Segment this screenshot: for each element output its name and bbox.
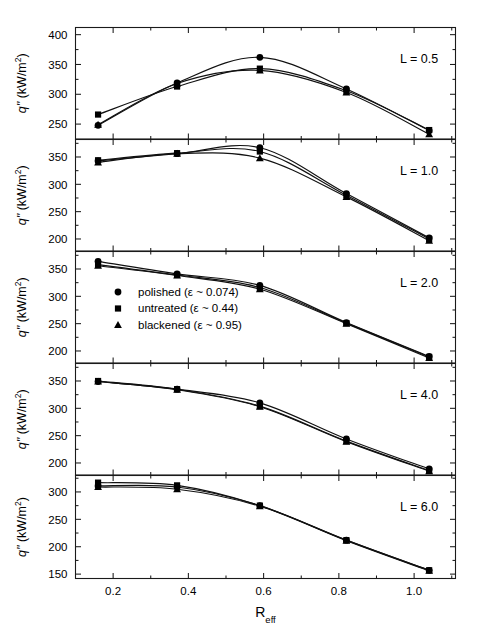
x-tick-label: 1.0 <box>406 585 422 597</box>
panel-L-1.0: 200250300350L = 1.0q" (kW/m2) <box>13 140 456 252</box>
series-curve <box>98 149 429 239</box>
panel-frame <box>76 140 456 252</box>
legend-label: blackened (ε ~ 0.95) <box>138 319 242 331</box>
y-tick-label: 200 <box>48 345 67 357</box>
series-curve <box>98 70 429 134</box>
series-curve <box>98 487 429 571</box>
multi-panel-chart: 250300350400L = 0.5q" (kW/m2)20025030035… <box>0 0 479 632</box>
y-tick-label: 350 <box>48 59 67 71</box>
y-tick-label: 150 <box>48 568 67 580</box>
panel-label: L = 1.0 <box>400 164 438 178</box>
panel-L-6.0: 150200250300L = 6.0q" (kW/m2) <box>13 476 456 581</box>
series-curve <box>98 483 429 571</box>
series-curve <box>98 69 429 130</box>
y-axis-title: q" (kW/m2) <box>13 165 29 225</box>
y-tick-label: 200 <box>48 457 67 469</box>
series-curve <box>98 485 429 570</box>
y-tick-label: 200 <box>48 541 67 553</box>
x-tick-label: 0.8 <box>331 585 347 597</box>
data-point-circle <box>115 289 122 296</box>
panel-L-0.5: 250300350400L = 0.5q" (kW/m2) <box>13 28 456 140</box>
panel-label: L = 4.0 <box>400 388 438 402</box>
y-tick-label: 400 <box>48 29 67 41</box>
y-tick-label: 300 <box>48 88 67 100</box>
y-axis-title: q" (kW/m2) <box>13 277 29 337</box>
y-tick-label: 300 <box>48 403 67 415</box>
data-point-square <box>115 305 121 311</box>
legend-label: untreated (ε ~ 0.44) <box>138 302 238 314</box>
y-tick-label: 250 <box>48 514 67 526</box>
series-curve <box>98 382 429 469</box>
panel-frame <box>76 252 456 364</box>
data-point-square <box>257 148 263 154</box>
y-tick-label: 250 <box>48 318 67 330</box>
data-point-triangle <box>114 321 122 328</box>
series-curve <box>98 382 429 472</box>
y-axis-title: q" (kW/m2) <box>13 497 29 557</box>
data-point-square <box>95 111 101 117</box>
y-tick-label: 350 <box>48 375 67 387</box>
y-axis-title: q" (kW/m2) <box>13 389 29 449</box>
series-curve <box>98 153 429 241</box>
legend: polished (ε ~ 0.074)untreated (ε ~ 0.44)… <box>114 286 242 331</box>
panel-L-4.0: 200250300350L = 4.0q" (kW/m2) <box>13 364 456 476</box>
x-tick-label: 0.2 <box>105 585 121 597</box>
y-tick-label: 350 <box>48 263 67 275</box>
y-tick-label: 250 <box>48 430 67 442</box>
x-tick-label: 0.4 <box>180 585 197 597</box>
data-point-circle <box>256 54 263 61</box>
y-tick-label: 350 <box>48 151 67 163</box>
y-tick-label: 250 <box>48 118 67 130</box>
x-axis-title: Reff <box>255 604 276 625</box>
panel-frame <box>76 28 456 140</box>
figure-container: 250300350400L = 0.5q" (kW/m2)20025030035… <box>0 0 479 632</box>
y-tick-label: 300 <box>48 291 67 303</box>
y-axis-title: q" (kW/m2) <box>13 53 29 113</box>
y-tick-label: 300 <box>48 486 67 498</box>
x-tick-label: 0.6 <box>256 585 272 597</box>
panel-label: L = 2.0 <box>400 276 438 290</box>
legend-label: polished (ε ~ 0.074) <box>138 286 239 298</box>
x-axis: 0.20.40.60.81.0Reff <box>105 585 422 625</box>
panel-label: L = 0.5 <box>400 52 438 66</box>
series-curve <box>98 381 429 471</box>
y-tick-label: 200 <box>48 233 67 245</box>
y-tick-label: 250 <box>48 206 67 218</box>
panel-label: L = 6.0 <box>400 500 438 514</box>
panel-frame <box>76 476 456 579</box>
y-tick-label: 300 <box>48 179 67 191</box>
